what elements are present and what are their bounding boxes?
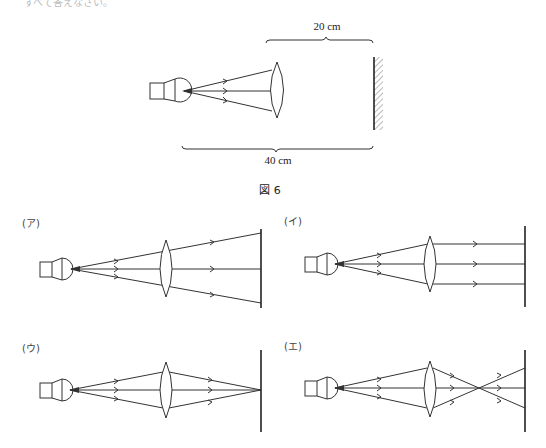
convex-lens-icon [424,361,436,417]
option-a-label: (ア) [22,218,40,229]
option-c[interactable]: (ウ) [22,343,261,432]
optics-diagram: すべて答えなさい。 20 cm 40 cm 図 6 [0,0,546,448]
option-d[interactable]: (エ) [284,341,525,432]
convex-lens-icon [160,240,172,297]
option-d-label: (エ) [284,341,302,352]
option-b-label: (イ) [284,216,302,227]
screen-wall-icon [374,57,383,130]
figure-caption: 図 6 [259,184,281,197]
option-a[interactable]: (ア) [22,218,261,308]
dimension-40cm: 40 cm [264,154,292,166]
dimension-20cm: 20 cm [313,20,341,32]
bracket-bottom [182,146,373,152]
light-bulb-icon [150,78,192,102]
main-figure: 20 cm 40 cm 図 6 [150,20,383,197]
convex-lens-icon [271,62,284,118]
option-b[interactable]: (イ) [284,216,525,307]
convex-lens-icon [160,362,172,418]
option-c-label: (ウ) [22,343,40,354]
bracket-top [266,37,373,43]
header-partial-text: すべて答えなさい。 [24,0,113,8]
